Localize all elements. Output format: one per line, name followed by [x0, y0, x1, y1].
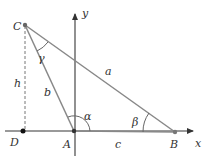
- label-angle-beta: β: [131, 116, 138, 129]
- label-side-c: c: [115, 138, 121, 151]
- point-c: [23, 23, 27, 27]
- label-angle-alpha: α: [84, 110, 92, 123]
- label-y-axis: y: [81, 7, 89, 20]
- angle-beta-arc: [143, 113, 149, 132]
- angle-gamma-arc: [37, 42, 48, 51]
- label-x-axis: x: [195, 137, 202, 150]
- side-c: [74, 131, 175, 132]
- label-b: B: [169, 138, 178, 151]
- point-a: [72, 129, 76, 133]
- label-side-a: a: [105, 65, 112, 78]
- label-d: D: [9, 136, 19, 149]
- label-altitude-h: h: [14, 77, 21, 90]
- label-c: C: [13, 20, 22, 33]
- point-b: [173, 130, 177, 134]
- side-a: [25, 25, 175, 132]
- label-angle-gamma: γ: [38, 52, 45, 65]
- label-side-b: b: [44, 86, 51, 99]
- side-b: [25, 25, 74, 131]
- point-d: [21, 129, 26, 134]
- label-a: A: [62, 138, 71, 151]
- triangle-diagram: C A B D x y a b c h α β γ: [0, 0, 207, 156]
